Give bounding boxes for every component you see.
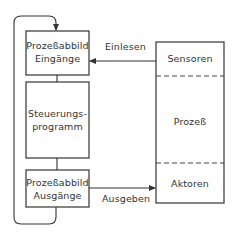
write-out-arrow: Ausgeben xyxy=(89,188,155,204)
read-in-label: Einlesen xyxy=(105,41,146,52)
plc-cycle-diagram: Prozeßabbild Eingänge Steuerungs- progra… xyxy=(0,0,236,235)
input-image-box: Prozeßabbild Eingänge xyxy=(26,31,89,75)
sensors-label: Sensoren xyxy=(167,53,212,64)
actuators-label: Aktoren xyxy=(171,178,209,189)
read-in-arrow: Einlesen xyxy=(90,41,156,61)
write-out-label: Ausgeben xyxy=(102,193,150,204)
control-program-label-2: programm xyxy=(32,121,83,132)
input-image-label-1: Prozeßabbild xyxy=(26,40,88,51)
input-image-label-2: Eingänge xyxy=(35,53,80,64)
output-image-label-2: Ausgänge xyxy=(33,190,81,201)
control-program-box: Steuerungs- programm xyxy=(26,82,89,158)
output-image-box: Prozeßabbild Ausgänge xyxy=(26,170,89,207)
process-label: Prozeß xyxy=(174,116,207,127)
output-image-label-1: Prozeßabbild xyxy=(26,177,88,188)
control-program-label-1: Steuerungs- xyxy=(28,108,87,119)
process-block: Sensoren Prozeß Aktoren xyxy=(156,42,224,203)
